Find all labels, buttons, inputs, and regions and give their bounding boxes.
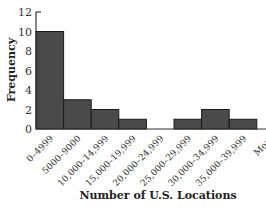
x-axis-categories: 0–49995000–900010,000–14,99915,000–19,99…	[25, 133, 266, 188]
y-tick-label: 12	[18, 6, 32, 19]
y-tick-label: 6	[25, 65, 32, 78]
histogram-bar	[202, 110, 230, 130]
histogram-bar	[64, 100, 92, 129]
x-axis-label: Number of U.S. Locations	[79, 189, 236, 202]
y-tick-label: 0	[25, 123, 32, 136]
x-category-label: 35,000–39,999	[194, 133, 249, 188]
histogram-bar	[91, 110, 119, 130]
y-tick-label: 8	[25, 45, 32, 58]
histogram-bar	[36, 32, 64, 130]
bars	[36, 32, 266, 130]
y-tick-label: 4	[25, 84, 32, 97]
y-tick-label: 10	[18, 26, 32, 39]
x-category-label: More	[252, 133, 266, 157]
y-tick-label: 2	[25, 104, 32, 117]
histogram-bar	[174, 119, 202, 129]
y-axis-label: Frequency	[5, 37, 18, 102]
histogram-bar	[229, 119, 257, 129]
histogram-bar	[119, 119, 147, 129]
histogram-chart: 024681012 0–49995000–900010,000–14,99915…	[0, 0, 266, 213]
